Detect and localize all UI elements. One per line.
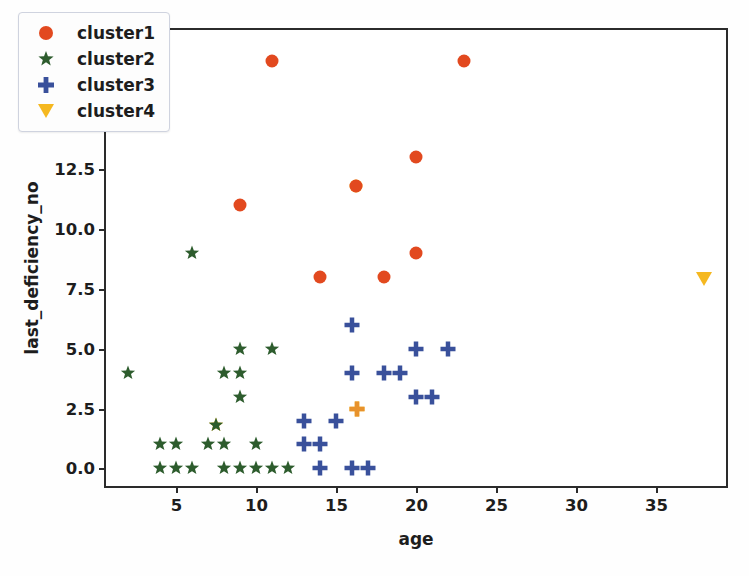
legend-item-label: cluster3: [77, 75, 155, 95]
data-point-cluster3: [345, 365, 360, 380]
legend-item-cluster4: cluster4: [29, 98, 155, 124]
x-tick-label: 15: [325, 496, 348, 515]
legend-item-label: cluster1: [77, 23, 155, 43]
x-tick-label: 35: [645, 496, 668, 515]
y-tick: [99, 409, 106, 411]
data-point-cluster3: [313, 461, 328, 476]
data-point-cluster4: [350, 401, 365, 416]
legend-item-cluster3: cluster3: [29, 72, 155, 98]
legend-item-cluster2: cluster2: [29, 46, 155, 72]
x-tick: [576, 486, 578, 493]
y-axis-label: last_deficiency_no: [22, 118, 42, 418]
y-tick: [99, 229, 106, 231]
x-axis-label: age: [104, 529, 728, 549]
data-point-cluster3: [345, 461, 360, 476]
data-point-cluster2: [169, 437, 184, 452]
data-point-cluster3: [297, 437, 312, 452]
data-point-cluster3: [377, 365, 392, 380]
data-point-cluster2: [217, 365, 232, 380]
plot-frame: 0.02.55.07.510.012.515.017.5510152025303…: [104, 28, 728, 488]
data-point-cluster2: [233, 365, 248, 380]
triangle-down-icon: [29, 104, 63, 118]
data-point-cluster2: [281, 461, 296, 476]
legend-item-label: cluster2: [77, 49, 155, 69]
x-tick-label: 5: [171, 496, 182, 515]
data-point-cluster1: [378, 270, 391, 283]
data-point-cluster2: [233, 461, 248, 476]
data-point-cluster1: [349, 179, 362, 192]
x-tick: [256, 486, 258, 493]
data-point-cluster1: [266, 55, 279, 68]
x-tick: [496, 486, 498, 493]
plot-area: [106, 30, 726, 486]
legend-item-label: cluster4: [77, 101, 155, 121]
x-tick: [656, 486, 658, 493]
scatter-plot-figure: 0.02.55.07.510.012.515.017.5510152025303…: [0, 0, 749, 576]
data-point-cluster3: [409, 341, 424, 356]
data-point-cluster4: [696, 272, 712, 286]
data-point-cluster2: [265, 461, 280, 476]
x-tick-label: 20: [405, 496, 428, 515]
y-tick-label: 7.5: [66, 279, 95, 298]
y-tick: [99, 289, 106, 291]
y-tick: [99, 468, 106, 470]
circle-icon: [29, 26, 63, 40]
data-point-cluster3: [329, 413, 344, 428]
data-point-cluster1: [458, 55, 471, 68]
y-tick-label: 2.5: [66, 399, 95, 418]
data-point-cluster3: [297, 413, 312, 428]
x-tick: [336, 486, 338, 493]
x-tick-label: 30: [565, 496, 588, 515]
data-point-cluster2: [233, 341, 248, 356]
y-tick-label: 5.0: [66, 339, 95, 358]
x-tick-label: 25: [485, 496, 508, 515]
y-tick-label: 10.0: [54, 219, 95, 238]
data-point-cluster2: [201, 437, 216, 452]
legend-item-cluster1: cluster1: [29, 20, 155, 46]
data-point-cluster2: [153, 461, 168, 476]
y-tick: [99, 349, 106, 351]
data-point-cluster3: [441, 341, 456, 356]
data-point-cluster2: [217, 461, 232, 476]
data-point-cluster2: [121, 365, 136, 380]
plus-icon: [29, 77, 63, 93]
x-tick-label: 10: [245, 496, 268, 515]
data-point-cluster2: [209, 418, 224, 433]
data-point-cluster3: [393, 365, 408, 380]
data-point-cluster2: [249, 461, 264, 476]
data-point-cluster2: [169, 461, 184, 476]
data-point-cluster3: [361, 461, 376, 476]
data-point-cluster3: [409, 389, 424, 404]
data-point-cluster2: [185, 461, 200, 476]
data-point-cluster2: [249, 437, 264, 452]
data-point-cluster2: [153, 437, 168, 452]
x-tick: [176, 486, 178, 493]
data-point-cluster2: [185, 245, 200, 260]
data-point-cluster1: [410, 246, 423, 259]
data-point-cluster2: [265, 341, 280, 356]
x-tick: [416, 486, 418, 493]
data-point-cluster1: [314, 270, 327, 283]
y-tick-label: 12.5: [54, 159, 95, 178]
data-point-cluster3: [313, 437, 328, 452]
y-tick: [99, 169, 106, 171]
data-point-cluster2: [233, 389, 248, 404]
data-point-cluster2: [217, 437, 232, 452]
legend: cluster1cluster2cluster3cluster4: [18, 12, 170, 132]
data-point-cluster1: [410, 150, 423, 163]
data-point-cluster1: [234, 198, 247, 211]
y-tick-label: 0.0: [66, 459, 95, 478]
data-point-cluster3: [345, 317, 360, 332]
data-point-cluster3: [425, 389, 440, 404]
star-icon: [29, 51, 63, 67]
